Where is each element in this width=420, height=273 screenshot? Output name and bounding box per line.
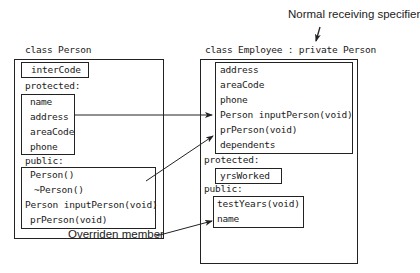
- annotation-normal-receiving-specifier: Normal receiving specifier: [288, 8, 420, 20]
- member-testyears: testYears(void): [217, 196, 300, 211]
- base-private-members-box: interCode: [21, 62, 89, 78]
- member-dependents: dependents: [220, 137, 275, 152]
- derived-inherited-members-box: address areaCode phone Person inputPerso…: [215, 62, 353, 154]
- inherited-address: address: [220, 62, 259, 77]
- derived-class-title: class Employee : private Person: [205, 42, 376, 57]
- base-protected-members-box: name address areaCode phone: [21, 94, 75, 155]
- member-phone: phone: [30, 139, 58, 154]
- member-constructor: Person(): [30, 167, 74, 182]
- inherited-inputperson: Person inputPerson(void): [220, 107, 352, 122]
- derived-protected-label: protected:: [204, 152, 259, 167]
- derived-public-label: public:: [204, 181, 243, 196]
- base-public-label: public:: [25, 153, 64, 168]
- derived-public-members-box: testYears(void) name: [213, 196, 304, 228]
- inherited-prperson: prPerson(void): [220, 122, 297, 137]
- inherited-phone: phone: [220, 92, 248, 107]
- base-class-title: class Person: [25, 42, 91, 57]
- member-inputperson: Person inputPerson(void): [25, 197, 157, 212]
- member-name: name: [30, 94, 52, 109]
- member-prperson: prPerson(void): [30, 212, 107, 227]
- base-public-members-box: Person() ~Person() Person inputPerson(vo…: [21, 167, 156, 229]
- member-areacode: areaCode: [30, 124, 74, 139]
- member-intercode: interCode: [31, 62, 81, 77]
- member-name-overridden: name: [217, 211, 239, 226]
- base-protected-label: protected:: [25, 78, 80, 93]
- inherited-areacode: areaCode: [220, 77, 264, 92]
- specifier-arrow: [316, 27, 320, 41]
- annotation-overriden-member: Overriden member: [68, 228, 164, 240]
- member-address: address: [30, 109, 69, 124]
- member-destructor: ~Person(): [34, 182, 84, 197]
